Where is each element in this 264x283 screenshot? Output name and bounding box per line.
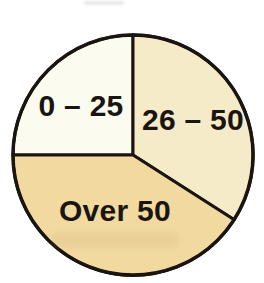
slice-label-26-50: 26 – 50 [142,103,244,136]
pie-chart-svg: 0 – 25 26 – 50 Over 50 [0,0,264,283]
slice-label-over-50: Over 50 [59,194,171,227]
pie-chart-figure: 0 – 25 26 – 50 Over 50 [0,0,264,283]
slice-label-0-25: 0 – 25 [38,89,123,122]
